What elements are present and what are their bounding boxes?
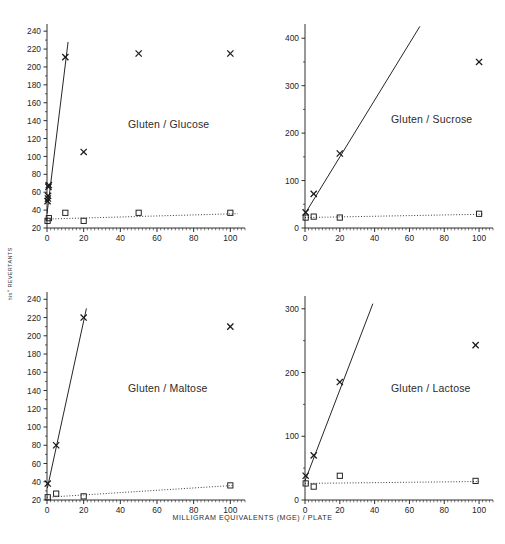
y-tick-label: 180	[27, 80, 41, 90]
y-tick-label: 300	[285, 81, 299, 91]
data-point-square	[473, 478, 478, 483]
y-tick-label: 200	[27, 331, 41, 341]
x-tick-label: 100	[223, 233, 237, 243]
fit-line-dotted	[305, 214, 483, 217]
panel-title-gluten-maltose: Gluten / Maltose	[128, 382, 208, 394]
y-tick-label: 240	[27, 26, 41, 36]
x-tick-label: 80	[440, 233, 450, 243]
data-point-square	[54, 491, 59, 496]
data-point-cross	[227, 50, 233, 56]
x-tick-label: 0	[303, 505, 308, 515]
x-tick-label: 20	[335, 505, 345, 515]
y-tick-label: 200	[27, 62, 41, 72]
plot-gluten-lactose: 0100200300020406080100	[255, 272, 505, 544]
x-tick-label: 40	[116, 505, 126, 515]
data-point-cross	[227, 324, 233, 330]
y-tick-label: 40	[32, 477, 42, 487]
data-point-cross	[81, 149, 87, 155]
y-tick-label: 140	[27, 116, 41, 126]
data-point-square	[476, 211, 481, 216]
x-tick-label: 60	[152, 505, 162, 515]
plot-gluten-sucrose: 0100200300400020406080100	[255, 0, 505, 272]
x-tick-label: 100	[472, 505, 486, 515]
y-tick-label: 400	[285, 33, 299, 43]
data-point-square	[311, 214, 316, 219]
y-tick-label: 160	[27, 367, 41, 377]
fit-line-dotted	[47, 214, 238, 219]
data-point-square	[337, 473, 342, 478]
y-tick-label: 140	[27, 386, 41, 396]
y-tick-label: 100	[27, 152, 41, 162]
x-tick-label: 0	[45, 505, 50, 515]
x-tick-label: 60	[405, 233, 415, 243]
data-point-cross	[476, 59, 482, 65]
panel-gluten-lactose: 0100200300020406080100 Gluten / Lactose	[255, 272, 505, 544]
data-point-square	[311, 484, 316, 489]
data-point-cross	[311, 191, 317, 197]
y-tick-label: 60	[32, 187, 42, 197]
x-tick-label: 0	[45, 233, 50, 243]
panel-title-gluten-sucrose: Gluten / Sucrose	[391, 113, 472, 125]
y-tick-label: 100	[285, 431, 299, 441]
x-tick-label: 20	[335, 233, 345, 243]
y-tick-label: 220	[27, 313, 41, 323]
x-tick-label: 80	[189, 233, 199, 243]
x-tick-label: 0	[303, 233, 308, 243]
figure-container: his+ REVERTANTS MILLIGRAM EQUIVALENTS (M…	[0, 0, 505, 544]
data-point-square	[228, 210, 233, 215]
y-tick-label: 100	[27, 422, 41, 432]
x-tick-label: 80	[189, 505, 199, 515]
y-tick-label: 220	[27, 44, 41, 54]
x-tick-label: 40	[370, 233, 380, 243]
y-tick-label: 0	[294, 223, 299, 233]
fit-line-dotted	[47, 485, 234, 497]
panel-gluten-sucrose: 0100200300400020406080100 Gluten / Sucro…	[255, 0, 505, 272]
x-tick-label: 40	[370, 505, 380, 515]
y-tick-label: 120	[27, 404, 41, 414]
plot-gluten-maltose: 2040608010012014016018020022024002040608…	[0, 272, 255, 544]
x-tick-label: 60	[152, 233, 162, 243]
y-tick-label: 200	[285, 128, 299, 138]
y-tick-label: 240	[27, 294, 41, 304]
y-tick-label: 80	[32, 440, 42, 450]
data-point-cross	[62, 54, 68, 60]
data-point-square	[63, 210, 68, 215]
y-tick-label: 0	[294, 495, 299, 505]
panel-title-gluten-glucose: Gluten / Glucose	[128, 118, 209, 130]
panel-title-gluten-lactose: Gluten / Lactose	[391, 382, 471, 394]
panel-gluten-maltose: 2040608010012014016018020022024002040608…	[0, 272, 255, 544]
x-tick-label: 80	[440, 505, 450, 515]
y-tick-label: 20	[32, 495, 42, 505]
y-tick-label: 180	[27, 349, 41, 359]
data-point-square	[337, 215, 342, 220]
y-tick-label: 160	[27, 98, 41, 108]
x-tick-label: 60	[405, 505, 415, 515]
y-tick-label: 100	[285, 176, 299, 186]
x-tick-label: 20	[79, 505, 89, 515]
y-tick-label: 200	[285, 368, 299, 378]
x-tick-label: 100	[223, 505, 237, 515]
y-tick-label: 120	[27, 134, 41, 144]
y-tick-label: 20	[32, 223, 42, 233]
data-point-cross	[337, 379, 343, 385]
fit-line-dotted	[305, 482, 479, 484]
data-point-square	[136, 210, 141, 215]
plot-gluten-glucose: 2040608010012014016018020022024002040608…	[0, 0, 255, 272]
x-tick-label: 20	[79, 233, 89, 243]
panel-gluten-glucose: 2040608010012014016018020022024002040608…	[0, 0, 255, 272]
y-tick-label: 80	[32, 169, 42, 179]
x-tick-label: 40	[116, 233, 126, 243]
fit-line-solid	[47, 308, 86, 488]
y-tick-label: 40	[32, 205, 42, 215]
data-point-square	[81, 218, 86, 223]
x-tick-label: 100	[472, 233, 486, 243]
data-point-cross	[472, 342, 478, 348]
data-point-cross	[136, 50, 142, 56]
y-tick-label: 300	[285, 304, 299, 314]
y-tick-label: 60	[32, 459, 42, 469]
